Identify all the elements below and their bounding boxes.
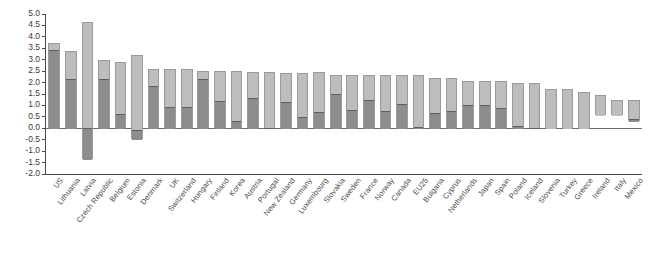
bar-split-line: [480, 105, 490, 106]
bar: [529, 83, 541, 129]
bar-segment-light: [563, 90, 573, 129]
bar-split-line: [513, 126, 523, 127]
bar-split-line: [49, 50, 59, 51]
bar: [197, 71, 209, 129]
bar-split-line: [629, 119, 639, 120]
bar-segment-light: [182, 70, 192, 107]
bar-segment-dark: [165, 107, 175, 129]
bar-split-line: [132, 130, 142, 131]
bar-segment-light: [480, 82, 490, 106]
y-tick-label: -2.0: [25, 168, 40, 179]
bar-split-line: [281, 102, 291, 103]
bar-segment-light: [612, 101, 622, 115]
bar-split-line: [182, 107, 192, 108]
bar: [479, 81, 491, 129]
bar-segment-light: [215, 72, 225, 101]
bar: [148, 69, 160, 128]
bar: [346, 75, 358, 129]
bar: [396, 75, 408, 128]
bar-split-line: [530, 128, 540, 129]
x-axis-line: [45, 174, 642, 175]
bar-segment-dark: [347, 110, 357, 129]
bar-segment-light: [364, 76, 374, 100]
bar: [164, 69, 176, 128]
bar-segment-dark: [463, 105, 473, 129]
bar-segment-light: [132, 56, 142, 131]
bar-segment-light: [248, 73, 258, 98]
bar-segment-light: [265, 73, 275, 128]
bar: [562, 89, 574, 128]
bar: [313, 72, 325, 128]
x-axis-labels: USLithuaniaLatviaCzech RepublicBelgiumEs…: [46, 176, 642, 252]
y-tick-label: -0.5: [25, 134, 40, 145]
bar-segment-light: [116, 63, 126, 115]
y-tick-label: 1.5: [28, 88, 40, 99]
bar-split-line: [447, 111, 457, 112]
bar-segment-light: [298, 74, 308, 117]
y-tick-label: 0.5: [28, 111, 40, 122]
bar: [247, 72, 259, 128]
x-axis-label: Japan: [476, 176, 496, 198]
bar-segment-dark: [430, 113, 440, 129]
bar-segment-dark: [116, 114, 126, 129]
bar: [48, 43, 60, 129]
bar-segment-light: [381, 76, 391, 110]
bar: [264, 72, 276, 128]
bar-segment-dark: [248, 98, 258, 129]
bar: [330, 75, 342, 129]
bar-segment-light: [281, 74, 291, 101]
bar-segment-light: [99, 61, 109, 79]
bar-split-line: [83, 128, 93, 129]
bar-segment-dark: [149, 86, 159, 129]
bar: [512, 83, 524, 129]
bar: [115, 62, 127, 129]
bar-segment-dark: [83, 128, 93, 160]
y-tick-label: 3.0: [28, 54, 40, 65]
y-tick-label: 0.0: [28, 122, 40, 133]
bar: [413, 75, 425, 129]
bar-split-line: [463, 105, 473, 106]
bar: [82, 22, 94, 159]
bar-segment-light: [414, 76, 424, 128]
bar: [462, 81, 474, 129]
bar-segment-dark: [397, 104, 407, 129]
bar-segment-dark: [281, 102, 291, 129]
bar-split-line: [232, 121, 242, 122]
bar-segment-light: [579, 93, 589, 130]
bar-split-line: [430, 113, 440, 114]
bar-split-line: [215, 101, 225, 102]
bar-split-line: [198, 79, 208, 80]
bar-split-line: [381, 111, 391, 112]
bar-segment-light: [546, 90, 556, 129]
y-tick-label: 4.5: [28, 19, 40, 30]
bar-segment-light: [430, 79, 440, 113]
bar-segment-light: [629, 101, 639, 119]
bar: [297, 73, 309, 128]
bar-segment-light: [49, 44, 59, 51]
bar-segment-dark: [132, 130, 142, 139]
bar-segment-dark: [182, 107, 192, 129]
bar-split-line: [248, 98, 258, 99]
bar-segment-dark: [331, 94, 341, 129]
y-tick-label: -1.0: [25, 145, 40, 156]
bar-split-line: [397, 104, 407, 105]
bar-segment-light: [165, 70, 175, 107]
bar-split-line: [116, 114, 126, 115]
bar: [429, 78, 441, 128]
bar-split-line: [331, 94, 341, 95]
bar: [628, 100, 640, 121]
bar-split-line: [364, 100, 374, 101]
bar-segment-dark: [480, 105, 490, 129]
y-tick-label: 1.0: [28, 99, 40, 110]
bar-segment-light: [232, 72, 242, 122]
bar-segment-dark: [381, 111, 391, 130]
bar: [545, 89, 557, 128]
bar: [446, 78, 458, 128]
bar-segment-light: [149, 70, 159, 86]
y-tick-label: -1.5: [25, 157, 40, 168]
bar-split-line: [66, 79, 76, 80]
bar-segment-light: [496, 82, 506, 108]
bar-split-line: [149, 86, 159, 87]
y-tick-label: 2.0: [28, 77, 40, 88]
bar-split-line: [496, 108, 506, 109]
